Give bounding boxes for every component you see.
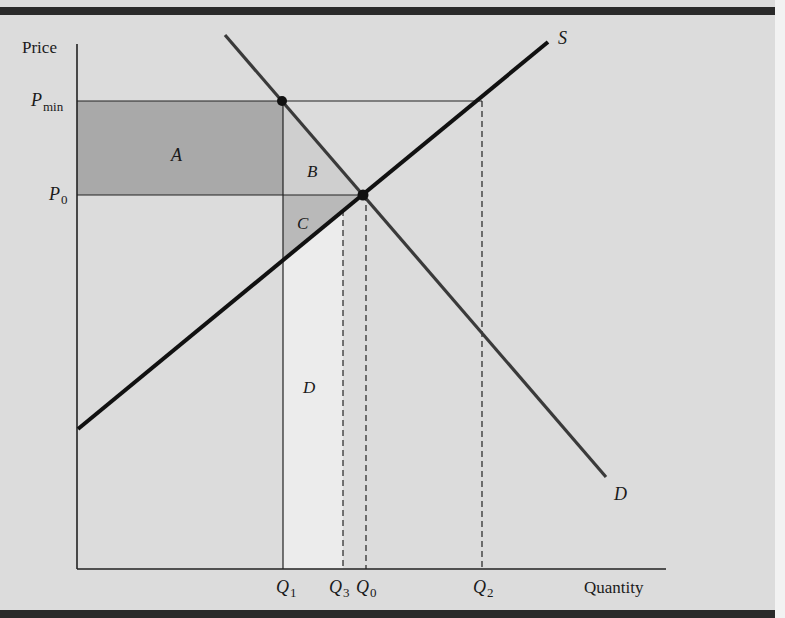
- area-d-label: D: [302, 378, 316, 397]
- equilibrium-point: [358, 190, 369, 201]
- q2-tick-label: Q 2: [473, 577, 494, 600]
- svg-text:Q: Q: [356, 577, 369, 597]
- svg-text:Q: Q: [329, 577, 342, 597]
- area-a-label: A: [170, 145, 183, 165]
- svg-text:0: 0: [370, 585, 377, 600]
- pmin-demand-point: [277, 96, 287, 106]
- area-c-label: C: [297, 214, 309, 233]
- pmin-tick-label: P min: [30, 90, 64, 114]
- q0-tick-label: Q 0: [356, 577, 377, 600]
- area-b-label: B: [307, 162, 318, 181]
- x-axis-label: Quantity: [584, 578, 644, 597]
- svg-text:P: P: [30, 90, 42, 110]
- q3-tick-label: Q 3: [329, 577, 350, 600]
- svg-text:2: 2: [487, 585, 494, 600]
- p0-tick-label: P 0: [48, 184, 68, 207]
- q1-tick-label: Q 1: [276, 577, 297, 600]
- svg-text:3: 3: [343, 585, 350, 600]
- y-axis-label: Price: [22, 38, 57, 57]
- supply-label: S: [558, 28, 567, 48]
- demand-label: D: [613, 484, 627, 504]
- svg-text:Q: Q: [276, 577, 289, 597]
- svg-text:min: min: [43, 99, 64, 114]
- svg-text:1: 1: [290, 585, 297, 600]
- svg-text:P: P: [48, 184, 60, 204]
- price-floor-diagram: Price Quantity S D A B C D P min P 0 Q 1…: [0, 0, 785, 618]
- svg-text:0: 0: [61, 192, 68, 207]
- svg-text:Q: Q: [473, 577, 486, 597]
